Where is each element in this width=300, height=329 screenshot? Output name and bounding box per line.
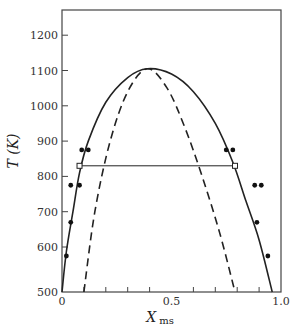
y-tick-label: 600 — [37, 241, 58, 254]
data-point-filled — [79, 148, 84, 153]
phase-diagram-chart: 500600700800900100011001200 00.51.0 T (K… — [0, 0, 300, 329]
plot-frame — [62, 10, 281, 292]
data-point-filled — [252, 183, 257, 188]
x-axis: 00.51.0 — [59, 287, 290, 308]
x-tick-label: 1.0 — [272, 295, 290, 308]
y-tick-label: 700 — [37, 206, 58, 219]
data-point-filled — [224, 148, 229, 153]
data-point-filled — [64, 254, 69, 259]
data-point-open — [77, 163, 82, 168]
data-point-filled — [255, 220, 260, 225]
data-points — [64, 148, 270, 259]
x-axis-title: Xms — [145, 309, 174, 326]
data-point-filled — [68, 220, 73, 225]
data-point-filled — [259, 183, 264, 188]
data-point-filled — [86, 148, 91, 153]
y-tick-label: 500 — [37, 286, 58, 299]
data-point-filled — [68, 183, 73, 188]
y-tick-label: 1100 — [30, 65, 58, 78]
x-tick-label: 0 — [59, 295, 66, 308]
plot-curves — [62, 69, 272, 292]
y-tick-label: 1000 — [30, 100, 58, 113]
binodal-coexistence-curve--curve — [62, 69, 272, 292]
y-tick-label: 800 — [37, 170, 58, 183]
data-point-filled — [230, 148, 235, 153]
y-tick-label: 1200 — [30, 29, 58, 42]
data-point-open — [233, 163, 238, 168]
x-tick-label: 0.5 — [163, 295, 181, 308]
y-tick-label: 900 — [37, 135, 58, 148]
y-axis-title: T (K) — [5, 133, 21, 168]
data-point-filled — [77, 183, 82, 188]
data-point-filled — [265, 254, 270, 259]
